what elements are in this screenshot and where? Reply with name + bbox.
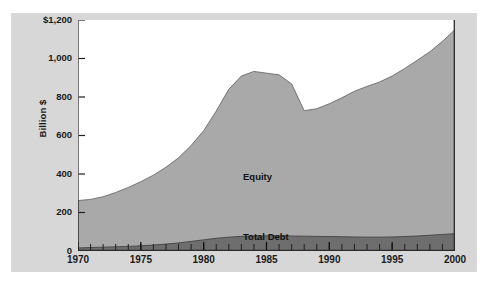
- x-tick-label: 1970: [54, 254, 102, 265]
- x-tick-label: 1995: [368, 254, 416, 265]
- x-tick-label: 1985: [243, 254, 291, 265]
- x-axis-tick-labels: 1970197519801985199019952000: [0, 0, 489, 285]
- x-tick-label: 2000: [431, 254, 479, 265]
- x-tick-label: 1975: [117, 254, 165, 265]
- chart-figure: Billion $ $1,2001,0008006004002000 Equit…: [0, 0, 489, 285]
- x-tick-label: 1980: [180, 254, 228, 265]
- x-tick-label: 1990: [305, 254, 353, 265]
